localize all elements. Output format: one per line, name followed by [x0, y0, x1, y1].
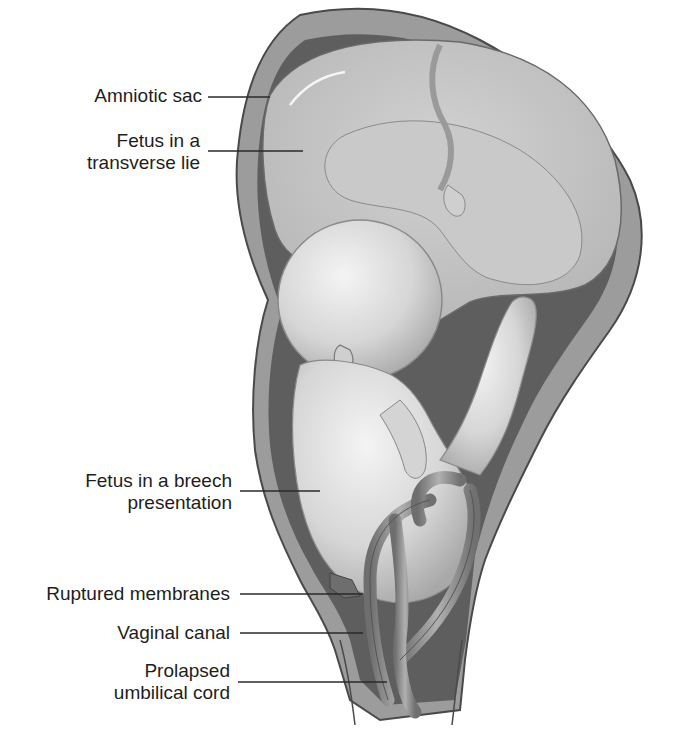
breech-fetus-head	[278, 220, 442, 380]
label-prolapsed-cord: Prolapsed umbilical cord	[114, 660, 230, 704]
illustration-canvas: Amniotic sac Fetus in a transverse lie F…	[0, 0, 676, 737]
label-amniotic-sac: Amniotic sac	[94, 85, 202, 107]
label-vaginal-canal: Vaginal canal	[117, 622, 230, 644]
label-ruptured-membranes: Ruptured membranes	[46, 583, 230, 605]
anatomy-illustration	[0, 0, 676, 737]
label-fetus-transverse-lie: Fetus in a transverse lie	[87, 130, 200, 174]
label-fetus-breech: Fetus in a breech presentation	[85, 470, 232, 514]
